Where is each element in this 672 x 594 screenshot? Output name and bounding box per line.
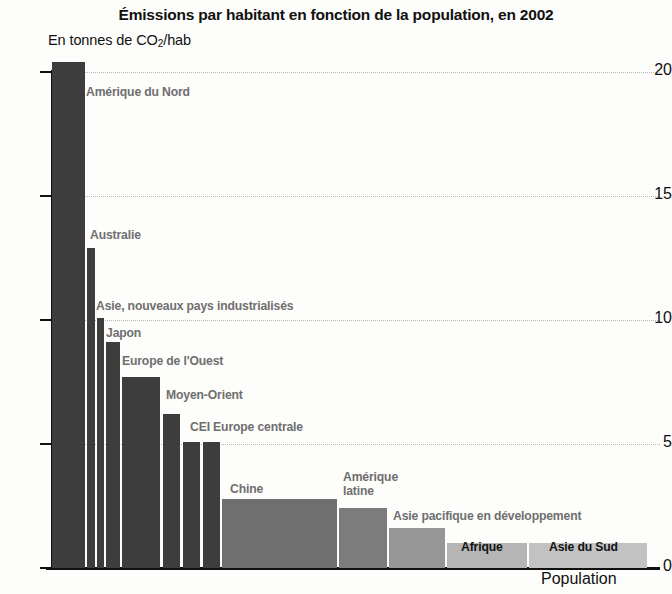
bar-label-12: Asie du Sud [549,540,618,554]
y-tick-label-10: 10 [638,309,672,327]
plot-area: 05101520 Amérique du NordAustralieAsie, … [0,0,672,594]
bar-6[interactable] [183,442,200,568]
y-tick-label-20: 20 [638,61,672,79]
bar-label-8: Chine [230,482,263,496]
bar-9[interactable] [339,508,387,568]
gridline-10 [53,320,660,321]
bar-3[interactable] [106,342,120,568]
gridline-20 [53,72,660,73]
bar-label-2: Asie, nouveaux pays industrialisés [96,299,293,313]
bar-7[interactable] [203,442,220,568]
bar-1[interactable] [87,248,95,568]
bar-10[interactable] [389,528,445,568]
y-tick-label-15: 15 [638,185,672,203]
bar-label-4: Europe de l'Ouest [122,354,223,368]
bar-label-0: Amérique du Nord [86,85,190,99]
bar-label-10: Asie pacifique en développement [393,509,581,523]
bar-4[interactable] [122,377,160,568]
bar-label-1: Australie [90,228,141,242]
bar-label-9: Amériquelatine [343,470,398,498]
bar-0[interactable] [52,62,85,568]
bar-5[interactable] [163,414,180,568]
bar-label-3: Japon [106,326,141,340]
gridline-15 [53,196,660,197]
bar-label-5: Moyen-Orient [166,388,243,402]
x-axis-label: Population [541,570,617,588]
bar-2[interactable] [97,318,104,568]
bar-label-11: Afrique [461,540,503,554]
chart-container: Émissions par habitant en fonction de la… [0,0,672,594]
bar-8[interactable] [222,499,337,568]
y-tick-label-5: 5 [638,433,672,451]
bar-label-6: CEI Europe centrale [190,420,303,434]
